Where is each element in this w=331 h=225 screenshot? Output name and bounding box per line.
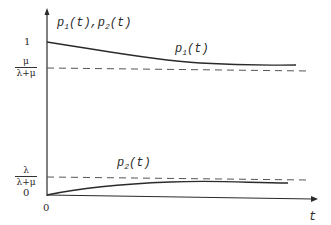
y-label-p2: p: [98, 16, 105, 30]
x-tick-zero: 0: [43, 203, 49, 213]
frac-mu-num: μ: [15, 57, 37, 68]
curve-p1-arg: (t): [187, 42, 209, 56]
curve-label-p1: p1(t): [175, 39, 209, 57]
y-tick-one: 1: [24, 37, 30, 47]
x-label-t: t: [309, 210, 316, 224]
asymptote-mu: [47, 68, 310, 71]
curve-label-p2: p2(t): [117, 153, 151, 171]
curve-p2: [47, 181, 288, 195]
frac-lambda-num: λ: [15, 166, 37, 177]
y-axis-label: p1(t),p2(t): [57, 13, 131, 31]
curve-p2-arg: (t): [129, 156, 151, 170]
x-axis-label: t: [309, 207, 316, 223]
y-label-p2-arg: (t): [110, 16, 132, 30]
y-tick-lambda-fraction: λ λ+μ: [15, 166, 37, 187]
x-axis-arrow-icon: [311, 196, 318, 202]
frac-mu-den: λ+μ: [15, 68, 37, 78]
asymptote-lambda: [47, 177, 308, 180]
y-axis-arrow-icon: [45, 8, 50, 15]
x-axis: [47, 195, 314, 199]
y-label-p1-arg: (t),: [69, 16, 98, 30]
curve-p1: [47, 42, 296, 65]
frac-lambda-den: λ+μ: [15, 177, 37, 187]
y-tick-zero: 0: [23, 188, 29, 198]
y-tick-mu-fraction: μ λ+μ: [15, 57, 37, 78]
chart-canvas: [0, 0, 331, 225]
